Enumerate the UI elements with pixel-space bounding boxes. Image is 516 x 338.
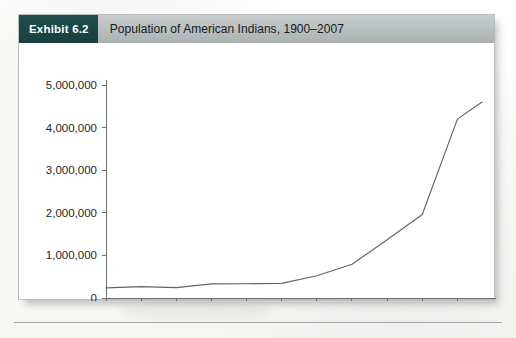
chart-plot-area: 01,000,0002,000,0003,000,0004,000,0005,0… [19, 43, 494, 299]
y-axis-ticks: 01,000,0002,000,0003,000,0004,000,0005,0… [46, 79, 106, 301]
y-tick-label: 2,000,000 [46, 207, 97, 219]
y-tick-label: 1,000,000 [46, 249, 97, 261]
line-chart: 01,000,0002,000,0003,000,0004,000,0005,0… [19, 43, 496, 301]
exhibit-card: Exhibit 6.2 Population of American India… [18, 14, 495, 300]
y-tick-label: 4,000,000 [46, 122, 97, 134]
y-tick-label: 3,000,000 [46, 164, 97, 176]
y-tick-label: 0 [91, 292, 97, 301]
exhibit-number-badge: Exhibit 6.2 [19, 15, 98, 43]
scan-smudge [120, 300, 270, 322]
population-line-series [106, 102, 482, 288]
page-background: Exhibit 6.2 Population of American India… [0, 0, 516, 338]
page-horizontal-rule [14, 322, 502, 323]
exhibit-header: Exhibit 6.2 Population of American India… [19, 15, 494, 43]
y-tick-label: 5,000,000 [46, 79, 97, 91]
exhibit-title: Population of American Indians, 1900–200… [98, 15, 344, 43]
